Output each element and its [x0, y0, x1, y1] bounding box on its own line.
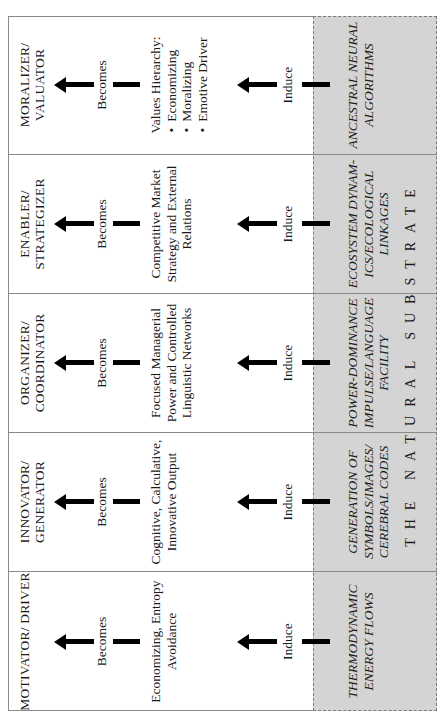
connector-dash — [302, 361, 330, 366]
induce-label: Induce — [280, 155, 295, 293]
becomes-arrow-icon — [54, 220, 94, 228]
role-description: Competitive Market Strategy and External… — [148, 157, 195, 291]
substrate-label: GENERATION OF SYMBOLS/IMAGES/ CEREBRAL C… — [345, 433, 392, 571]
role-description: Economizing, Entropy Avoidance — [148, 574, 179, 709]
role-description: Cognitive, Calculative, Innovative Outpu… — [148, 435, 179, 569]
connector-dash — [113, 640, 140, 645]
connector-dash — [302, 500, 330, 505]
natural-substrate-banner: THE NATURAL SUBSTRATE — [403, 16, 419, 711]
column-motivator-driver: MOTIVATOR/ DRIVER Becomes Economizing, E… — [8, 572, 437, 711]
substrate-label: ECOSYSTEM DYNAM- ICS/ECOLOGICAL LINKAGES — [345, 155, 392, 293]
role-title: MORALIZER/ VALUATOR — [17, 16, 47, 154]
induce-arrow-icon — [237, 638, 277, 646]
induce-arrow-icon — [237, 81, 277, 89]
becomes-label: Becomes — [94, 572, 109, 711]
connector-dash — [113, 222, 140, 227]
role-description: Focused Managerial Power and Controlled … — [148, 296, 195, 430]
column-organizer-coordinator: ORGANIZER/ COORDINATOR Becomes Focused M… — [8, 294, 437, 433]
becomes-arrow-icon — [54, 359, 94, 367]
connector-dash — [302, 640, 330, 645]
column-innovator-generator: INNOVATOR/ GENERATOR Becomes Cognitive, … — [8, 433, 437, 572]
induce-arrow-icon — [237, 220, 277, 228]
bullet-item: Economizing — [164, 37, 180, 132]
role-description: Values Hierarchy: Economizing Moralizing… — [148, 18, 210, 152]
connector-dash — [113, 500, 140, 505]
induce-label: Induce — [280, 433, 295, 571]
rotated-diagram: MOTIVATOR/ DRIVER Becomes Economizing, E… — [8, 16, 437, 711]
substrate-label: THERMODYNAMIC ENERGY FLOWS — [345, 572, 376, 711]
becomes-label: Becomes — [94, 433, 109, 571]
induce-label: Induce — [280, 294, 295, 432]
role-title: INNOVATOR/ GENERATOR — [17, 433, 47, 571]
becomes-label: Becomes — [94, 294, 109, 432]
becomes-arrow-icon — [54, 81, 94, 89]
bullet-item: Emotive Driver — [195, 37, 211, 132]
column-moralizer-valuator: MORALIZER/ VALUATOR Becomes Values Hiera… — [8, 16, 437, 155]
connector-dash — [113, 83, 140, 88]
becomes-label: Becomes — [94, 155, 109, 293]
induce-arrow-icon — [237, 359, 277, 367]
values-hierarchy-heading: Values Hierarchy: — [148, 18, 164, 152]
banner-text: THE NATURAL SUBSTRATE — [403, 180, 418, 547]
becomes-arrow-icon — [54, 498, 94, 506]
substrate-label: ANCESTRAL NEURAL ALGORITHMS — [345, 16, 376, 154]
becomes-label: Becomes — [94, 16, 109, 154]
bullet-item: Moralizing — [179, 37, 195, 132]
role-title: MOTIVATOR/ DRIVER — [17, 572, 32, 711]
connector-dash — [302, 83, 330, 88]
substrate-label: POWER-DOMINANCE IMPULSE/LANGUAGE FACILIT… — [345, 294, 392, 432]
role-title: ORGANIZER/ COORDINATOR — [17, 294, 47, 432]
column-enabler-strategizer: ENABLER/ STRATEGIZER Becomes Competitive… — [8, 155, 437, 294]
connector-dash — [113, 361, 140, 366]
role-title: ENABLER/ STRATEGIZER — [17, 155, 47, 293]
connector-dash — [302, 222, 330, 227]
values-hierarchy-list: Economizing Moralizing Emotive Driver — [164, 37, 211, 132]
induce-label: Induce — [280, 16, 295, 154]
becomes-arrow-icon — [54, 638, 94, 646]
induce-label: Induce — [280, 572, 295, 711]
induce-arrow-icon — [237, 498, 277, 506]
